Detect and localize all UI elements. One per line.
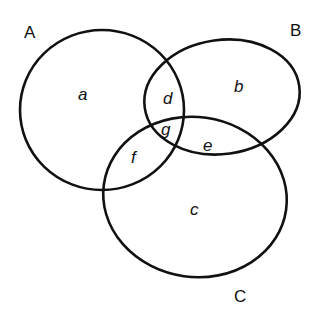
set-c-ellipse xyxy=(93,105,297,289)
region-f-label: f xyxy=(131,148,138,167)
set-a-ellipse xyxy=(20,30,184,190)
region-c-label: c xyxy=(190,200,199,219)
region-e-label: e xyxy=(203,136,212,155)
set-b-label: B xyxy=(290,21,301,40)
region-g-label: g xyxy=(161,120,171,139)
venn-diagram-svg: A B C a b c d e f g xyxy=(0,0,321,319)
set-a-label: A xyxy=(24,23,36,42)
set-c-label: C xyxy=(234,287,246,306)
venn-diagram: A B C a b c d e f g xyxy=(0,0,321,319)
region-d-label: d xyxy=(163,89,173,108)
region-b-label: b xyxy=(234,77,243,96)
region-a-label: a xyxy=(78,85,87,104)
